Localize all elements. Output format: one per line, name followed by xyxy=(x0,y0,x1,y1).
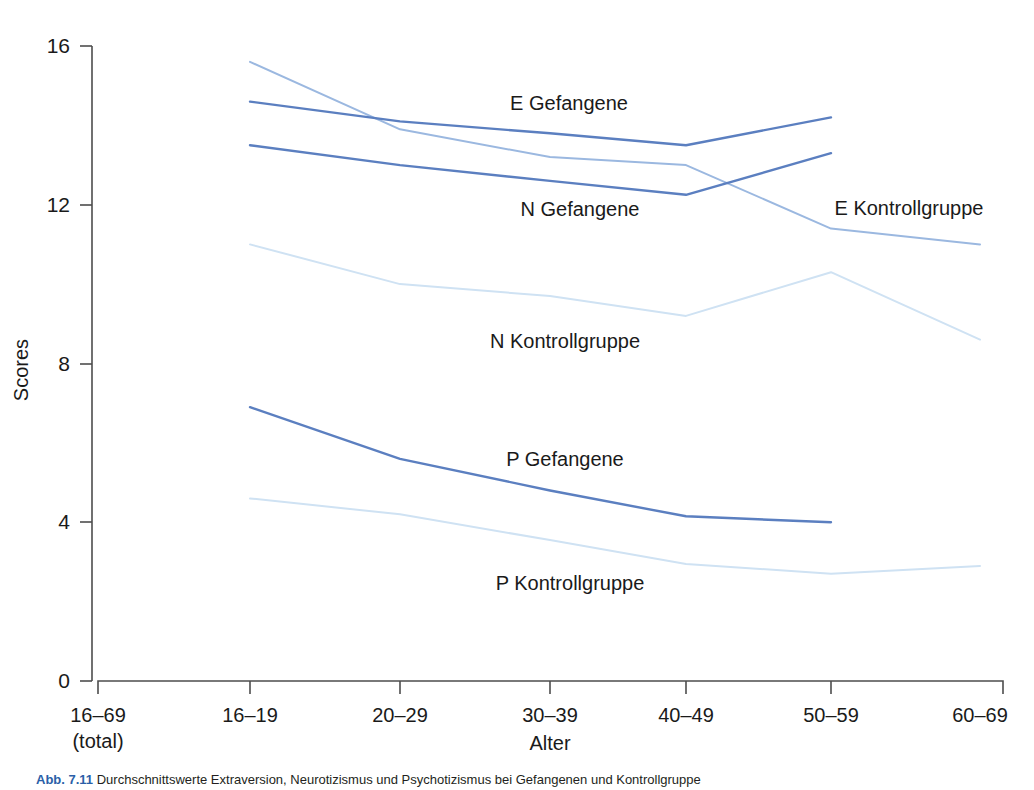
y-tick-label-16: 16 xyxy=(47,34,70,57)
x-tick-label-total: 16–69 xyxy=(70,704,126,726)
series-line-n-kontrollgruppe xyxy=(250,244,980,339)
e-kontrollgruppe-label: E Kontrollgruppe xyxy=(835,197,984,219)
y-tick-label-12: 12 xyxy=(47,193,70,216)
p-gefangene-label: P Gefangene xyxy=(506,448,624,470)
series-line-n-gefangene xyxy=(250,145,831,195)
x-tick-label-30-39: 30–39 xyxy=(522,704,578,726)
x-tick-label-60-69: 60–69 xyxy=(952,704,1008,726)
x-tick-label-40-49: 40–49 xyxy=(658,704,714,726)
x-tick-label-16-19: 16–19 xyxy=(222,704,278,726)
series-layer xyxy=(250,62,980,574)
x-tick-label-20-29: 20–29 xyxy=(372,704,428,726)
caption-text: Durchschnittswerte Extraversion, Neuroti… xyxy=(97,772,701,787)
x-tick-label-total-sub: (total) xyxy=(72,730,123,752)
e-gefangene-label: E Gefangene xyxy=(510,92,628,114)
series-line-p-kontrollgruppe xyxy=(250,498,980,573)
line-chart: 16 12 8 4 0 Scores 16–69 (total) 16–19 2… xyxy=(0,0,1034,790)
figure-container: 16 12 8 4 0 Scores 16–69 (total) 16–19 2… xyxy=(0,0,1034,790)
caption-number: Abb. 7.11 xyxy=(36,772,93,787)
n-gefangene-label: N Gefangene xyxy=(521,198,640,220)
y-tick-label-8: 8 xyxy=(58,352,70,375)
y-tick-label-0: 0 xyxy=(58,669,70,692)
n-kontrollgruppe-label: N Kontrollgruppe xyxy=(490,330,640,352)
x-tick-label-50-59: 50–59 xyxy=(803,704,859,726)
p-kontrollgruppe-label: P Kontrollgruppe xyxy=(496,572,645,594)
figure-caption: Abb. 7.11 Durchschnittswerte Extraversio… xyxy=(36,772,996,788)
x-axis-title: Alter xyxy=(529,732,570,754)
y-axis-title: Scores xyxy=(10,339,32,401)
y-tick-label-4: 4 xyxy=(58,510,70,533)
